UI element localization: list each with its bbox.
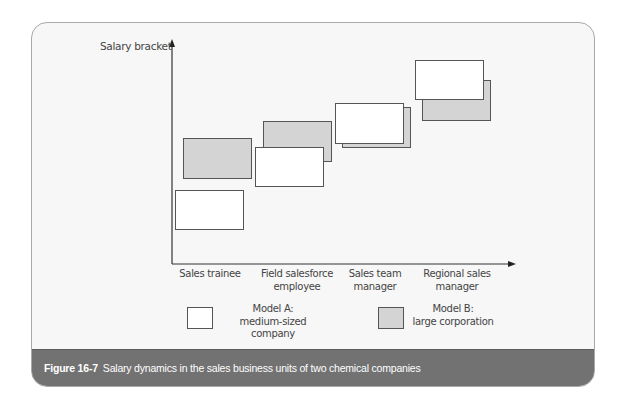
box-model-a-sales-trainee (175, 190, 244, 230)
x-label-field-salesforce: Field salesforce employee (252, 268, 342, 293)
legend-swatch-model-b (378, 307, 404, 329)
y-axis-label: Salary bracket (100, 40, 172, 52)
box-model-b-sales-trainee (183, 138, 252, 179)
box-model-a-field-salesforce (255, 147, 324, 187)
x-label-regional-sales-manager: Regional sales manager (412, 268, 502, 293)
box-model-a-regional-sales-manager (415, 60, 484, 100)
box-model-a-sales-team-manager (335, 103, 404, 144)
x-axis-arrow-icon (508, 261, 516, 267)
x-label-sales-trainee: Sales trainee (170, 268, 250, 281)
legend-label-model-a: Model A: medium-sized company (218, 303, 328, 341)
legend-label-model-b: Model B: large corporation (408, 303, 498, 328)
axes (0, 0, 625, 408)
legend-swatch-model-a (187, 307, 213, 329)
x-label-sales-team-manager: Sales team manager (340, 268, 410, 293)
